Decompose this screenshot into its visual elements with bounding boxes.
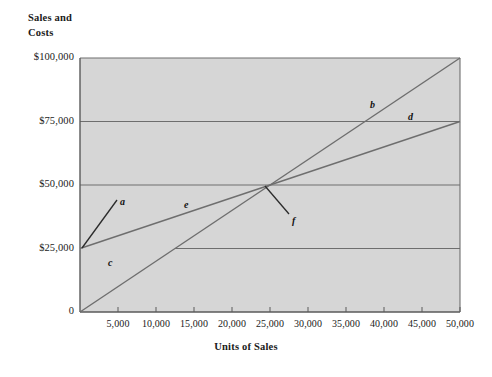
pointer-line-a xyxy=(82,200,117,248)
curve-label-a: a xyxy=(120,196,125,207)
x-tick-label-50000: 50,000 xyxy=(437,318,483,329)
y-tick-label-0: 0 xyxy=(0,305,74,316)
curve-label-e: e xyxy=(184,199,188,210)
pointer-line-f xyxy=(265,186,289,214)
curve-label-d: d xyxy=(408,111,413,122)
x-axis-title: Units of Sales xyxy=(0,341,492,352)
y-tick-label-75000: $75,000 xyxy=(0,115,74,126)
annotation-pointers-group xyxy=(82,186,289,248)
curve-label-c: c xyxy=(108,257,112,268)
y-tick-label-50000: $50,000 xyxy=(0,178,74,189)
curve-label-b: b xyxy=(370,99,375,110)
tickmarks-group xyxy=(118,307,460,312)
gridlines-group xyxy=(80,58,460,249)
y-tick-label-100000: $100,000 xyxy=(0,51,74,62)
curve-label-f: f xyxy=(292,215,295,226)
y-tick-label-25000: $25,000 xyxy=(0,242,74,253)
cost-volume-profit-chart: Sales and Costs 0$25,000$50,000$75,000$1… xyxy=(0,0,492,377)
